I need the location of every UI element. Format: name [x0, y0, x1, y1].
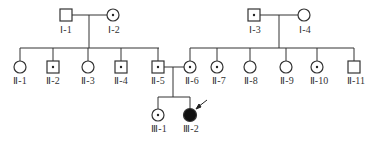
II-8-female-symbol: [244, 61, 256, 73]
proband-arrow-icon: [196, 100, 207, 109]
label-I-4: Ⅰ-4: [299, 25, 310, 35]
label-II-4: Ⅱ-4: [114, 76, 127, 86]
label-II-7: Ⅱ-7: [212, 76, 225, 86]
II-11-male-symbol: [348, 61, 360, 73]
label-II-1: Ⅱ-1: [13, 76, 26, 86]
III-2-female-affected-symbol: [184, 109, 197, 122]
label-III-1: Ⅲ-1: [151, 124, 166, 134]
label-II-6: Ⅱ-6: [185, 76, 198, 86]
label-I-2: Ⅰ-2: [108, 25, 119, 35]
label-II-2: Ⅱ-2: [46, 76, 59, 86]
label-II-5: Ⅱ-5: [151, 76, 164, 86]
II-3-female-symbol: [82, 61, 94, 73]
I-1-male-symbol: [60, 9, 72, 21]
II-1-female-symbol: [14, 61, 26, 73]
label-I-3: Ⅰ-3: [249, 25, 260, 35]
label-II-10: Ⅱ-10: [310, 76, 328, 86]
I-4-female-symbol: [298, 9, 310, 21]
II-9-female-symbol: [280, 61, 292, 73]
label-III-2: Ⅲ-2: [183, 124, 198, 134]
label-II-11: Ⅱ-11: [347, 76, 365, 86]
label-I-1: Ⅰ-1: [60, 25, 71, 35]
label-II-3: Ⅱ-3: [81, 76, 94, 86]
label-II-8: Ⅱ-8: [244, 76, 257, 86]
pedigree-lines: [0, 0, 377, 143]
label-II-9: Ⅱ-9: [280, 76, 293, 86]
pedigree-diagram: Ⅰ-1 Ⅰ-2 Ⅰ-3 Ⅰ-4 Ⅱ-1 Ⅱ-2 Ⅱ-3 Ⅱ-4 Ⅱ-5 Ⅱ-6 …: [0, 0, 377, 143]
